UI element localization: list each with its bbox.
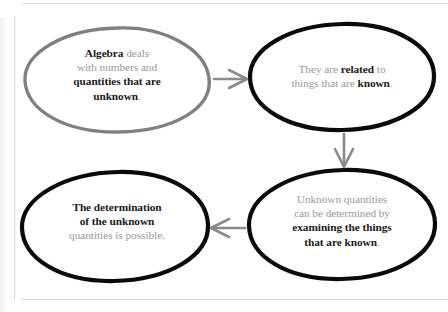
node-1-label: Algebra deals with numbers and quantitie… bbox=[34, 46, 200, 103]
arrow-3 bbox=[211, 219, 245, 237]
node-2-line1-tail: to bbox=[374, 63, 385, 75]
node-4-label: The determination of the unknown quantit… bbox=[32, 200, 202, 243]
node-2-period: . bbox=[390, 77, 393, 89]
node-1-period: . bbox=[138, 90, 141, 102]
node-1-line4-bold: unknown bbox=[93, 90, 138, 102]
node-3-line4-bold: that are known bbox=[304, 236, 377, 248]
node-2-line1-bold: related bbox=[341, 63, 374, 75]
node-4-line2-bold: of the unknown bbox=[80, 215, 155, 227]
node-1-line2: with numbers and bbox=[77, 61, 157, 73]
node-2-line2-bold: known bbox=[357, 77, 389, 89]
node-1-line1-bold: Algebra bbox=[85, 47, 124, 59]
node-3-line2: can be determined by bbox=[294, 207, 390, 219]
node-4-line3: quantities is possible. bbox=[69, 229, 165, 241]
arrow-1 bbox=[214, 70, 247, 88]
node-2-line2-lead: things that are bbox=[291, 77, 357, 89]
node-3-line3-bold: examining the things bbox=[292, 221, 391, 233]
page: Algebra deals with numbers and quantitie… bbox=[0, 0, 448, 312]
node-2-line1-lead: They are bbox=[299, 63, 341, 75]
node-3-period: . bbox=[377, 236, 380, 248]
node-4-line1-bold: The determination bbox=[72, 201, 161, 213]
node-3-label: Unknown quantities can be determined by … bbox=[256, 192, 428, 249]
node-1-line3-bold: quantities that are bbox=[73, 75, 160, 87]
node-1-line1-tail: deals bbox=[123, 47, 149, 59]
arrow-2 bbox=[335, 134, 353, 167]
node-2-label: They are related to things that are know… bbox=[258, 62, 426, 90]
node-3-line1: Unknown quantities bbox=[297, 193, 387, 205]
